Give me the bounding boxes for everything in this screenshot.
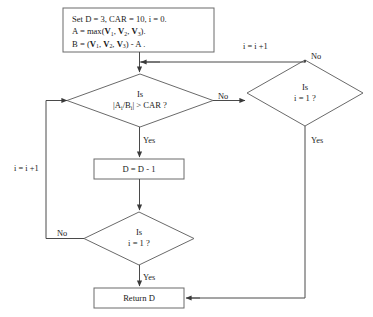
edge-right-yes-loop: [188, 126, 305, 298]
init-box-shape: [63, 8, 214, 52]
flowchart-canvas: [0, 0, 373, 317]
terminal-return-shape: [94, 288, 184, 308]
decision-i-bottom-shape: [84, 212, 194, 265]
decision-ratio-shape: [67, 74, 213, 127]
flowchart-diagram: Set D = 3, CAR = 10, i = 0. A = max(V1, …: [0, 0, 373, 317]
edge-right-no-horizontal: [141, 60, 305, 62]
edge-bottom-no-loop: [46, 101, 84, 239]
process-decrement-shape: [94, 159, 184, 179]
decision-i-right-shape: [247, 60, 363, 126]
